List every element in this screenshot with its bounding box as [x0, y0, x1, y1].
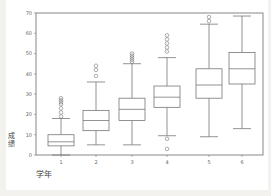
outlier-point	[94, 64, 98, 68]
outlier-point	[59, 107, 63, 111]
y-tick-label: 40	[26, 71, 32, 77]
outlier-point	[165, 42, 169, 46]
y-tick-label: 0	[29, 152, 32, 158]
y-tick-label: 30	[26, 91, 32, 97]
outlier-point	[165, 147, 169, 151]
y-tick-label: 60	[26, 30, 32, 36]
outlier-point	[59, 111, 63, 115]
y-tick-label: 70	[26, 10, 32, 16]
x-tick-label: 2	[94, 159, 97, 165]
outlier-point	[59, 115, 63, 119]
box-plot: 010203040506070123456	[0, 0, 271, 196]
outlier-point	[165, 46, 169, 50]
chart-frame: 010203040506070123456 学年 成绩	[0, 0, 271, 196]
outlier-point	[207, 15, 211, 19]
outlier-point	[94, 74, 98, 78]
x-tick-label: 5	[207, 159, 210, 165]
outlier-point	[165, 34, 169, 38]
x-axis-title: 学年	[36, 168, 52, 179]
outlier-point	[165, 137, 169, 141]
y-axis-title: 成绩	[8, 132, 18, 148]
y-tick-label: 10	[26, 132, 32, 138]
outlier-point	[165, 38, 169, 42]
x-tick-label: 4	[165, 159, 168, 165]
x-tick-label: 6	[240, 159, 243, 165]
y-tick-label: 20	[26, 111, 32, 117]
outlier-point	[165, 50, 169, 54]
iqr-box	[229, 53, 255, 84]
outlier-point	[94, 68, 98, 72]
x-tick-label: 1	[59, 159, 62, 165]
outlier-point	[207, 19, 211, 23]
x-tick-label: 3	[130, 159, 133, 165]
iqr-box	[196, 69, 222, 98]
iqr-box	[154, 86, 180, 107]
iqr-box	[48, 135, 74, 146]
y-tick-label: 50	[26, 50, 32, 56]
